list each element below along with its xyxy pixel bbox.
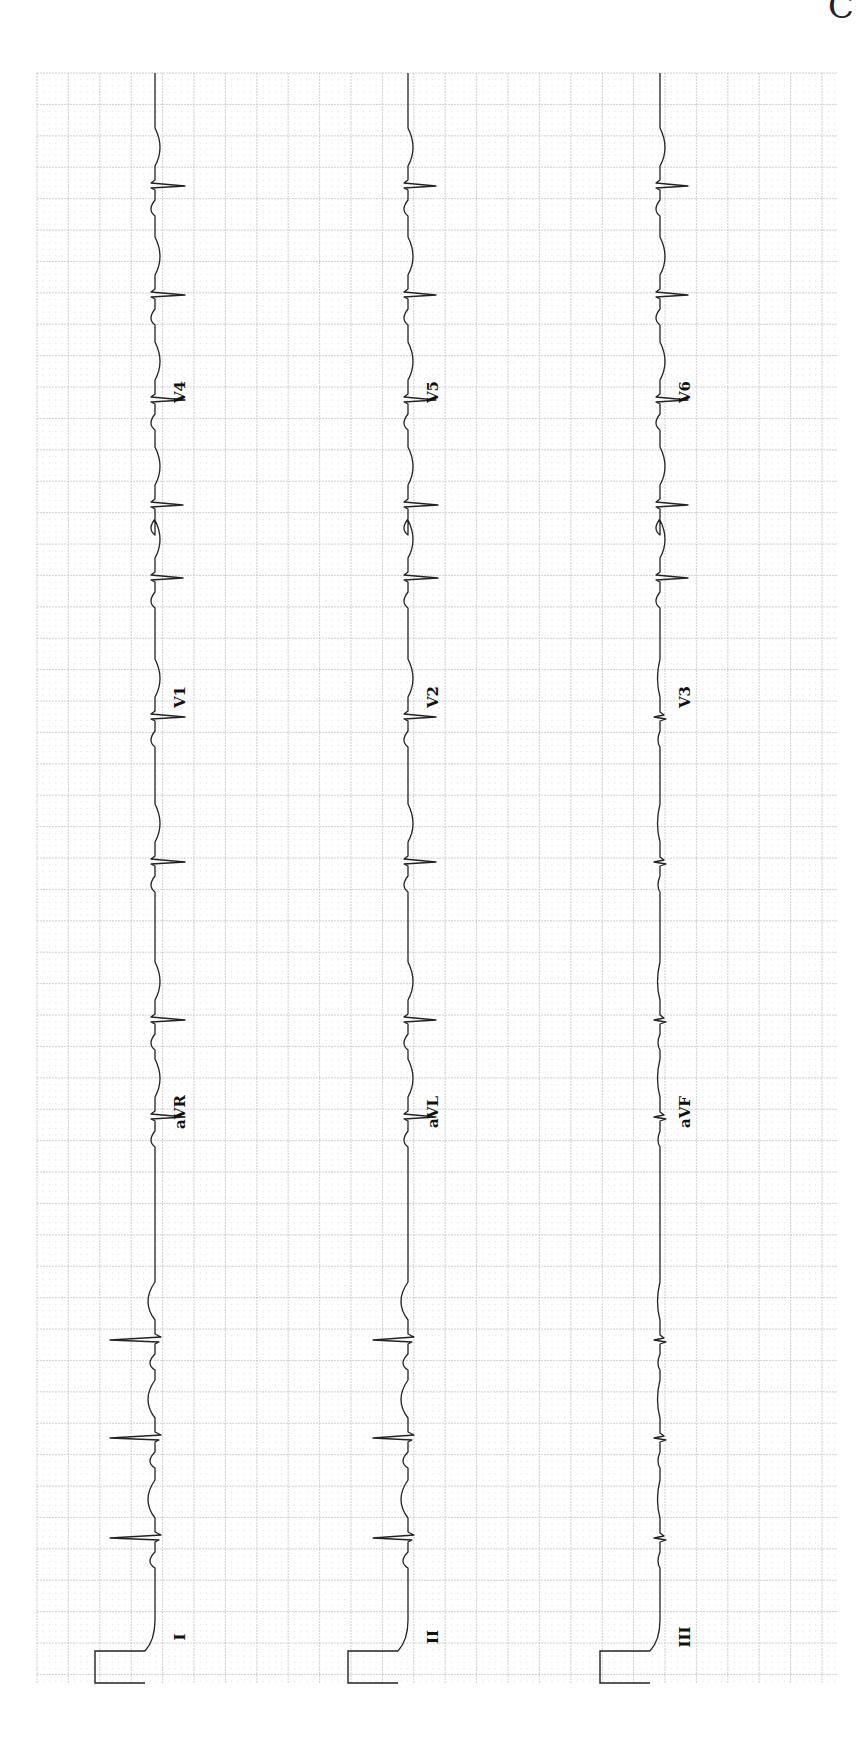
lead-label-v5: V5 [424, 381, 442, 404]
lead-label-avr: aVR [171, 1095, 189, 1129]
lead-label-avl: aVL [424, 1096, 442, 1128]
ecg-chart: IaVRV1V4IIaVLV2V5IIIaVFV3V6 [0, 0, 860, 1750]
lead-labels: IaVRV1V4IIaVLV2V5IIIaVFV3V6 [171, 381, 694, 1648]
lead-label-avf: aVF [676, 1096, 694, 1128]
lead-label-v4: V4 [171, 381, 189, 404]
lead-label-i: I [171, 1633, 189, 1640]
ecg-trace-row-1 [110, 73, 185, 1651]
calibration-pulse [600, 1651, 650, 1683]
lead-label-iii: III [676, 1626, 694, 1647]
calibration-pulse [348, 1651, 398, 1683]
lead-label-ii: II [424, 1630, 442, 1644]
ecg-trace-row-3 [650, 73, 688, 1651]
lead-label-v6: V6 [676, 381, 694, 404]
lead-label-v1: V1 [171, 686, 189, 709]
ecg-traces [95, 73, 688, 1683]
lead-label-v2: V2 [424, 686, 442, 709]
lead-label-v3: V3 [676, 686, 694, 709]
